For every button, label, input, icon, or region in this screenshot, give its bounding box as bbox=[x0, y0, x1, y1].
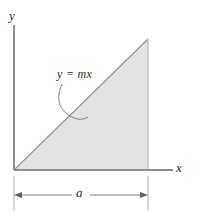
dimension-label-a: a bbox=[76, 186, 83, 199]
dimension-arrowhead-right bbox=[140, 192, 148, 198]
figure-container: y x y = mx a bbox=[0, 0, 197, 213]
equation-label: y = mx bbox=[57, 68, 92, 80]
figure-diagram-svg bbox=[0, 0, 197, 213]
y-axis-label: y bbox=[9, 9, 15, 22]
dimension-arrowhead-left bbox=[14, 192, 22, 198]
x-axis-label: x bbox=[176, 161, 182, 174]
